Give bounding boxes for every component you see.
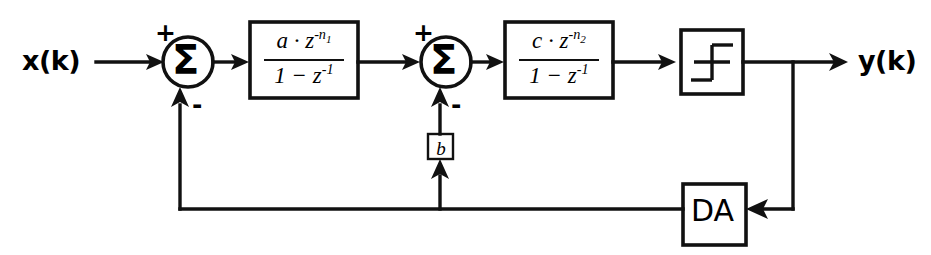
tf2-numerator: c · z-n2 [505,26,613,54]
diagram-vector-layer [0,0,931,255]
wire-quantizer-to-output [743,53,848,71]
da-block-label: DA [691,196,734,226]
wire-tf2-to-quantizer [613,54,676,70]
input-signal-label: x(k) [22,47,80,74]
sum2-plus-sign: + [413,20,434,45]
transfer-function-2-text: c · z-n2 1 − z-1 [505,22,613,98]
wire-input-to-sum1 [96,54,164,70]
wire-sum1-to-tf1 [213,54,249,70]
sum2-minus-sign: - [451,92,461,117]
wire-bus-to-sum1 [171,87,189,209]
sigma-glyph-2: Σ [430,40,457,80]
gain-b-label: b [429,138,453,160]
wire-bus-to-gain-b [431,159,449,209]
wire-output-tap-to-da [746,62,793,219]
sigma-glyph-1: Σ [172,40,199,80]
sum1-plus-sign: + [155,20,176,45]
output-signal-label: y(k) [858,47,916,74]
wire-gain-b-to-sum2 [431,87,449,134]
block-diagram-canvas: x(k) y(k) Σ Σ + - + - a · z-n1 1 − z-1 c… [0,0,931,255]
tf2-denominator: 1 − z-1 [505,61,613,89]
sum1-minus-sign: - [192,92,202,117]
wire-tf1-to-sum2 [358,54,420,70]
tf1-denominator: 1 − z-1 [250,61,358,89]
wire-sum2-to-tf2 [471,54,504,70]
transfer-function-1-text: a · z-n1 1 − z-1 [250,22,358,98]
tf1-numerator: a · z-n1 [250,26,358,54]
